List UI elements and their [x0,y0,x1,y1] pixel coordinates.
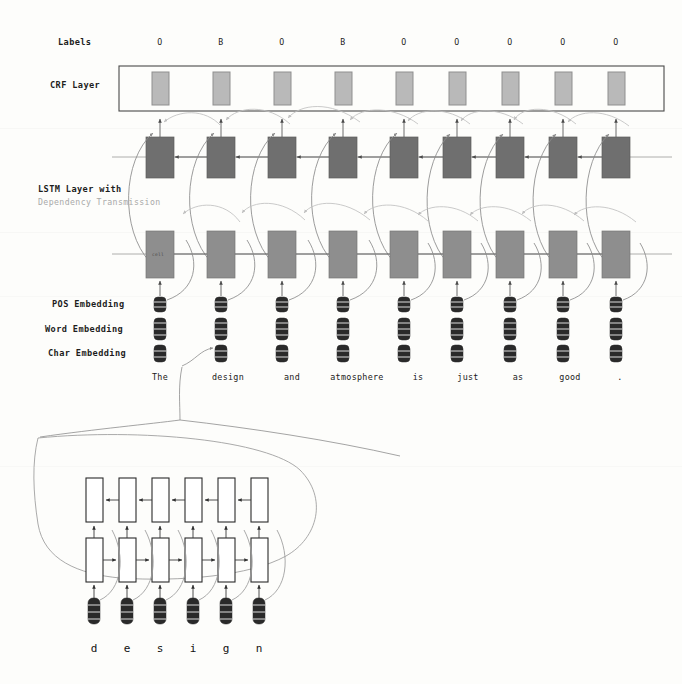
forward-lstm-cell-1 [207,231,235,278]
crf-box-0 [152,72,169,105]
char-vertical-links [94,526,259,538]
character-5: n [256,642,263,655]
char-embedding-5 [451,345,463,362]
embedding-column-8 [610,297,622,362]
tag-6: O [507,37,512,47]
crf-box-8 [608,72,625,105]
token-8: . [617,372,622,382]
embedding-column-2 [276,297,288,362]
tag-8: O [613,37,618,47]
pos-embedding-8 [610,297,622,312]
pos-embedding-2 [276,297,288,312]
pos-embedding-7 [557,297,569,312]
char-backward-cell-4 [218,478,235,522]
row-label-crf: CRF Layer [50,80,100,90]
char-embedding-0 [154,345,166,362]
char-embedding-2 [276,345,288,362]
tag-1: B [218,37,223,47]
backward-lstm-cell-5 [443,137,471,178]
char-expansion-pointer [182,348,213,366]
backward-lstm-cell-1 [207,137,235,178]
figure-canvas: Labels CRF Layer LSTM Layer with Depende… [0,0,682,684]
char-forward-cell-2 [152,538,169,582]
embedding-column-1 [215,297,227,362]
dependency-arcs-upper [164,107,629,127]
tag-3: B [340,37,345,47]
backward-lstm-cell-7 [549,137,577,178]
forward-lstm-cell-7 [549,231,577,278]
embedding-column-4 [398,297,410,362]
cell-annotation: cell [152,252,164,257]
pos-embedding-6 [504,297,516,312]
char-backward-cell-1 [119,478,136,522]
char-forward-cell-3 [185,538,202,582]
tag-row: O B O B O O O O O [157,37,618,47]
embedding-column-5 [451,297,463,362]
crf-box-4 [396,72,413,105]
forward-lstm-cell-4 [390,231,418,278]
char-embedding-stack-1 [121,598,133,624]
char-embedding-3 [337,345,349,362]
embedding-column-7 [557,297,569,362]
crf-box-5 [449,72,466,105]
embedding-stacks [154,297,622,362]
pos-embedding-3 [337,297,349,312]
character-4: g [223,642,230,655]
pos-embedding-5 [451,297,463,312]
token-4: is [413,372,424,382]
pos-embedding-1 [215,297,227,312]
char-subgraph-outline-left [34,438,120,578]
crf-box-1 [213,72,230,105]
forward-lstm-cell-5 [443,231,471,278]
char-embedding-4 [398,345,410,362]
character-3: i [190,642,197,655]
char-embedding-1 [215,345,227,362]
crf-box-7 [555,72,572,105]
char-embedding-links [94,585,259,598]
char-forward-cell-0 [86,538,103,582]
char-forward-cell-5 [251,538,268,582]
backward-lstm-cell-6 [496,137,524,178]
token-5: just [457,372,478,382]
backward-lstm-cell-4 [390,137,418,178]
character-1: e [124,642,131,655]
backward-lstm-cell-0 [146,137,174,178]
crf-box-6 [502,72,519,105]
forward-lstm-cell-2 [268,231,296,278]
tag-7: O [560,37,565,47]
token-6: as [513,372,524,382]
crf-box-2 [274,72,291,105]
token-7: good [559,372,580,382]
tag-0: O [157,37,162,47]
char-subgraph-outline-top [38,435,316,580]
token-1: design [212,372,244,382]
crf-layer-frame [119,66,664,111]
char-backward-cell-0 [86,478,103,522]
tag-5: O [454,37,459,47]
character-0: d [91,642,98,655]
char-embedding-7 [557,345,569,362]
char-forward-cell-1 [119,538,136,582]
row-label-lstm-line1: LSTM Layer with [38,184,122,194]
char-embedding-6 [504,345,516,362]
token-0: The [152,372,168,382]
embedding-column-3 [337,297,349,362]
char-embedding-stack-4 [220,598,232,624]
embedding-column-6 [504,297,516,362]
backward-lstm-cell-2 [268,137,296,178]
forward-lstm-cell-6 [496,231,524,278]
char-embedding-stack-5 [253,598,265,624]
forward-to-backward-arcs [129,133,609,262]
char-forward-cell-4 [218,538,235,582]
char-backward-cell-3 [185,478,202,522]
backward-lstm-cell-8 [602,137,630,178]
crf-boxes [152,72,625,105]
embedding-to-lstm-connectors [160,281,616,296]
row-label-lstm-line2: Dependency Transmission [38,197,161,207]
char-embedding-8 [610,345,622,362]
char-embedding-stacks [88,598,265,624]
token-row: The design and atmosphere is just as goo… [152,372,623,382]
architecture-diagram: Labels CRF Layer LSTM Layer with Depende… [0,0,682,684]
token-2: and [284,372,300,382]
backward-lstm-cell-3 [329,137,357,178]
